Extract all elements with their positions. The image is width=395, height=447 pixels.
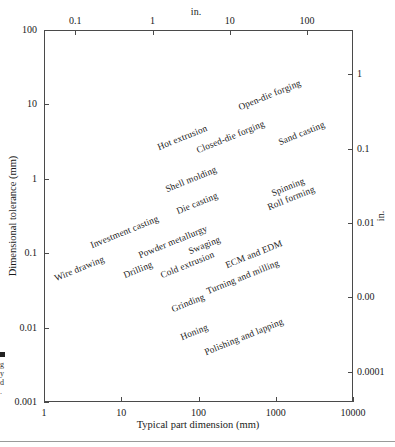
top-axis-tick-label: 0.1 — [69, 16, 82, 26]
page-caption-fragment: g y d . — [0, 352, 10, 422]
top-axis-tick — [230, 30, 231, 35]
right-axis-tick-label: 0.01 — [357, 218, 375, 228]
y-axis-tick — [44, 30, 49, 31]
y-axis-tick-label: 1 — [32, 174, 37, 184]
y-axis-tick-label: 0.01 — [20, 323, 38, 333]
caption-line: g — [0, 360, 10, 369]
right-axis-tick — [348, 223, 353, 224]
x-axis-tick — [353, 397, 354, 402]
x-axis-tick-label: 10 — [116, 408, 126, 418]
top-axis-tick-label: 100 — [300, 16, 315, 26]
top-axis-tick — [75, 30, 76, 35]
caption-line: . — [0, 387, 10, 396]
right-axis-tick — [348, 297, 353, 298]
right-axis-tick — [348, 372, 353, 373]
page-bottom-rule — [0, 441, 395, 442]
x-axis-tick-label: 1 — [42, 408, 47, 418]
right-axis-tick — [348, 149, 353, 150]
y-axis-tick-label: 10 — [27, 99, 37, 109]
y-axis-title: Dimensional tolerance (mm) — [7, 156, 18, 277]
caption-bullet-marker — [0, 352, 5, 357]
y-axis-tick — [44, 402, 49, 403]
y-axis-tick-label: 100 — [22, 25, 37, 35]
top-axis-tick — [307, 30, 308, 35]
right-axis-tick-label: 0.1 — [357, 144, 370, 154]
right-axis-tick-label: 0.00 — [357, 292, 375, 302]
x-axis-tick — [199, 397, 200, 402]
top-axis-title: in. — [191, 6, 201, 17]
top-axis-tick — [153, 30, 154, 35]
right-axis-tick-label: 1 — [357, 69, 362, 79]
right-axis-tick — [348, 74, 353, 75]
y-axis-tick — [44, 179, 49, 180]
top-axis-tick-label: 10 — [225, 16, 235, 26]
plot-area — [44, 30, 353, 402]
y-axis-tick-label: 0.001 — [15, 397, 38, 407]
top-axis-tick-label: 1 — [150, 16, 155, 26]
x-axis-tick-label: 10000 — [341, 408, 366, 418]
x-axis-tick-label: 1000 — [266, 408, 286, 418]
y-axis-tick — [44, 253, 49, 254]
x-axis-tick — [121, 397, 122, 402]
x-axis-tick-label: 100 — [191, 408, 206, 418]
y-axis-tick-label: 0.1 — [25, 248, 38, 258]
x-axis-title: Typical part dimension (mm) — [137, 419, 260, 430]
x-axis-tick — [276, 397, 277, 402]
right-axis-title: in. — [375, 211, 386, 221]
caption-line: y — [0, 369, 10, 378]
manufacturing-tolerance-chart: in. Typical part dimension (mm) Dimensio… — [0, 0, 395, 447]
caption-line: d — [0, 378, 10, 387]
y-axis-tick — [44, 328, 49, 329]
right-axis-tick-label: 0.0001 — [357, 367, 385, 377]
y-axis-tick — [44, 104, 49, 105]
